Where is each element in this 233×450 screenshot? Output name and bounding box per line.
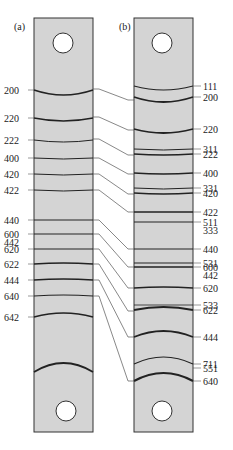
hkl-label: 620 — [203, 283, 218, 294]
hkl-label: 422 — [4, 185, 19, 196]
connector-400 — [93, 158, 134, 174]
hkl-label: 442 — [203, 270, 218, 281]
strip-body — [34, 18, 93, 432]
hkl-label: 222 — [4, 135, 19, 146]
hkl-label: 642 — [4, 312, 19, 323]
connector-422 — [93, 190, 134, 212]
strip-body — [134, 18, 193, 432]
hkl-label: 640 — [203, 376, 218, 387]
hkl-label: 200 — [203, 92, 218, 103]
connector-220 — [93, 117, 134, 130]
hkl-label: 420 — [4, 169, 19, 180]
hkl-label: 551 — [203, 363, 218, 374]
hkl-label: 400 — [4, 153, 19, 164]
connector-222 — [93, 139, 134, 155]
hkl-label: 111 — [203, 81, 217, 92]
reciprocal-lattice-strip-diagram: (a) (b) 20022022240042042244060044262062… — [0, 0, 233, 450]
hkl-label: 333 — [203, 225, 218, 236]
hkl-label: 220 — [4, 113, 19, 124]
film-strip-a — [34, 18, 93, 432]
hkl-label: 440 — [203, 244, 218, 255]
punch-hole — [53, 33, 73, 53]
connector-420 — [93, 174, 134, 194]
punch-hole — [56, 401, 76, 421]
strip-b-labels: 1112002203112224003314204225113334405316… — [193, 81, 218, 387]
hkl-label: 444 — [4, 275, 19, 286]
panel-a-label: (a) — [14, 21, 25, 33]
connector-600 — [93, 234, 134, 267]
hkl-label: 622 — [4, 259, 19, 270]
hkl-label: 440 — [4, 215, 19, 226]
strip-a-labels: 2002202224004204224406004426206224446406… — [4, 85, 34, 323]
punch-hole — [152, 33, 172, 53]
hkl-label: 640 — [4, 291, 19, 302]
hkl-label: 620 — [4, 244, 19, 255]
hkl-label: 200 — [4, 85, 19, 96]
hkl-label: 220 — [203, 124, 218, 135]
connector-444 — [93, 280, 134, 337]
connector-200 — [93, 89, 134, 100]
panel-b-label: (b) — [119, 21, 131, 33]
connector-620 — [93, 249, 134, 288]
hkl-label: 622 — [203, 305, 218, 316]
hkl-label: 444 — [203, 332, 218, 343]
hkl-label: 400 — [203, 168, 218, 179]
hkl-label: 222 — [203, 149, 218, 160]
hkl-label: 420 — [203, 188, 218, 199]
punch-hole — [152, 401, 172, 421]
index-connector-lines — [93, 89, 134, 381]
film-strip-b — [134, 18, 193, 432]
